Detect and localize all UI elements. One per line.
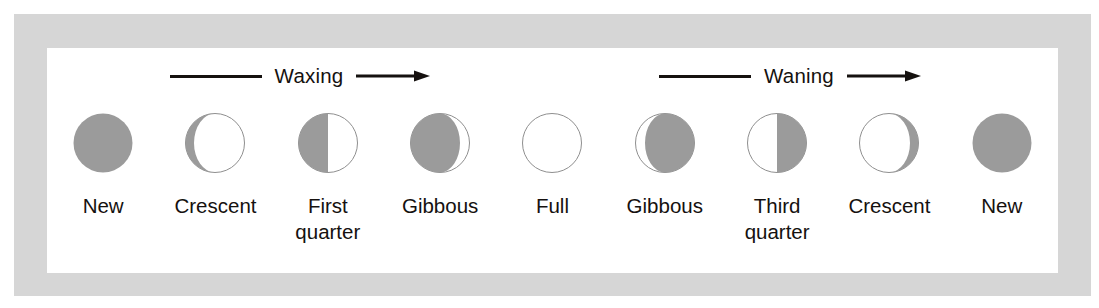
phase-label-new-2: New bbox=[951, 193, 1052, 219]
moon-waxing-crescent-icon bbox=[184, 112, 246, 174]
moon-phase-item bbox=[727, 112, 828, 174]
moon-phase-item bbox=[53, 112, 154, 174]
moon-waning-crescent-icon bbox=[858, 112, 920, 174]
phase-label-line1: Third bbox=[754, 194, 801, 217]
phase-label-line1: New bbox=[83, 194, 124, 217]
phase-label-line1: First bbox=[308, 194, 348, 217]
phase-label-waning-gibbous: Gibbous bbox=[614, 193, 715, 219]
waxing-label: Waxing bbox=[275, 66, 344, 87]
waning-annotation: Waning bbox=[650, 62, 930, 90]
waxing-annotation: Waxing bbox=[160, 62, 440, 90]
phase-label-line1: Crescent bbox=[174, 194, 256, 217]
phase-label-line1: Gibbous bbox=[402, 194, 478, 217]
arrow-right-icon bbox=[847, 70, 921, 82]
phase-label-line1: New bbox=[981, 194, 1022, 217]
moon-phase-item bbox=[277, 112, 378, 174]
phase-label-waning-crescent: Crescent bbox=[839, 193, 940, 219]
moon-phase-item bbox=[614, 112, 715, 174]
moon-phase-item bbox=[839, 112, 940, 174]
moon-phase-label-row: New Crescent First quarter Gibbous Full … bbox=[47, 193, 1058, 245]
moon-waxing-gibbous-icon bbox=[409, 112, 471, 174]
phase-label-line1: Full bbox=[536, 194, 569, 217]
phase-label-line1: Gibbous bbox=[627, 194, 703, 217]
phase-label-waxing-crescent: Crescent bbox=[165, 193, 266, 219]
moon-new-icon bbox=[72, 112, 134, 174]
rule-line-left bbox=[659, 75, 751, 78]
phase-label-new-1: New bbox=[53, 193, 154, 219]
moon-phase-item bbox=[390, 112, 491, 174]
phase-label-first-quarter: First quarter bbox=[277, 193, 378, 245]
moon-new-icon bbox=[971, 112, 1033, 174]
phase-label-third-quarter: Third quarter bbox=[727, 193, 828, 245]
moon-phases-figure: Waxing Waning bbox=[0, 0, 1099, 308]
moon-phase-item bbox=[165, 112, 266, 174]
moon-phase-row bbox=[47, 112, 1058, 188]
phase-label-waxing-gibbous: Gibbous bbox=[390, 193, 491, 219]
moon-full-icon bbox=[521, 112, 583, 174]
phase-label-line1: Crescent bbox=[848, 194, 930, 217]
moon-phase-item bbox=[502, 112, 603, 174]
moon-third-quarter-icon bbox=[746, 112, 808, 174]
phase-label-line2: quarter bbox=[277, 219, 378, 245]
rule-line-left bbox=[170, 75, 262, 78]
arrow-right-icon bbox=[356, 70, 430, 82]
moon-phase-item bbox=[951, 112, 1052, 174]
moon-first-quarter-icon bbox=[297, 112, 359, 174]
phase-label-full: Full bbox=[502, 193, 603, 219]
moon-waning-gibbous-icon bbox=[634, 112, 696, 174]
waning-label: Waning bbox=[764, 66, 834, 87]
phase-label-line2: quarter bbox=[727, 219, 828, 245]
